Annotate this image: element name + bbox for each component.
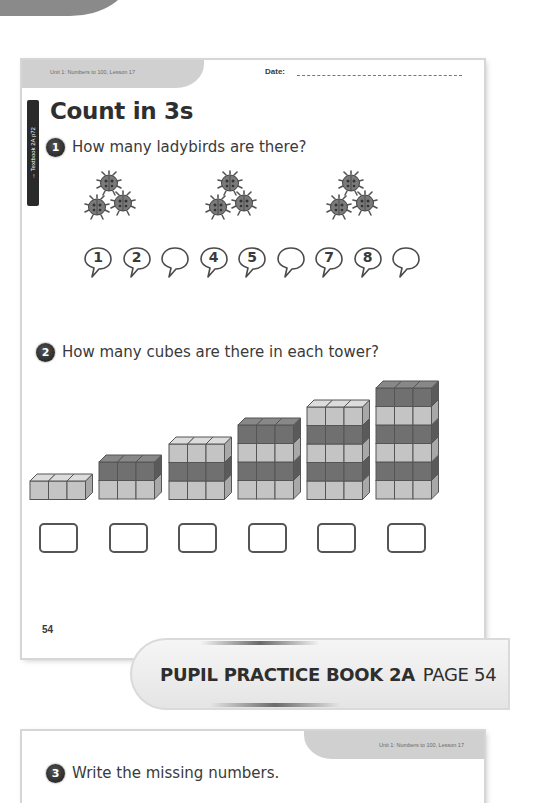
page-number: 54 (42, 624, 53, 635)
banner-book-title: PUPIL PRACTICE BOOK 2A (160, 664, 415, 685)
count-bubble-empty[interactable] (391, 246, 421, 280)
bubble-number: 7 (314, 249, 344, 265)
cube-tower (29, 473, 94, 505)
banner-page-label: PAGE 54 (423, 664, 497, 685)
question-3-number: 3 (52, 767, 60, 780)
bubble-number: 8 (353, 249, 383, 265)
top-decorative-shape (0, 0, 130, 16)
date-label: Date: (265, 67, 285, 76)
ladybird-group (326, 170, 386, 225)
ladybird-icon (352, 190, 378, 216)
answer-box[interactable] (248, 523, 287, 553)
textbook-reference-tab: → Textbook 2A p72 (27, 100, 39, 206)
unit-label: Unit 1: Numbers to 100, Lesson 17 (50, 69, 135, 75)
banner-caption: PUPIL PRACTICE BOOK 2APAGE 54 (160, 664, 496, 685)
answer-box[interactable] (387, 523, 426, 553)
workbook-page-54: Unit 1: Numbers to 100, Lesson 17 Date: … (22, 60, 484, 658)
date-field-line[interactable] (297, 75, 462, 76)
count-bubble-filled: 8 (353, 246, 383, 280)
ladybird-icon (205, 194, 231, 220)
ladybird-icon (110, 190, 136, 216)
cube-tower (237, 417, 302, 504)
question-1-number-badge: 1 (46, 138, 65, 157)
page-title: Count in 3s (50, 98, 193, 124)
question-1-text: How many ladybirds are there? (72, 138, 307, 156)
cube-tower (168, 436, 233, 505)
unit-label-2: Unit 1: Numbers to 100, Lesson 17 (379, 742, 464, 748)
textbook-reference-label: → Textbook 2A p72 (30, 127, 36, 179)
cube-tower (98, 454, 163, 504)
question-2-number: 2 (42, 346, 50, 359)
banner-decoration-top (200, 641, 320, 645)
cube-tower (306, 399, 371, 505)
cube-tower (375, 380, 440, 504)
question-1-number: 1 (52, 141, 60, 154)
count-bubble-filled: 5 (237, 246, 267, 280)
question-3-number-badge: 3 (46, 764, 65, 783)
ladybird-icon (326, 194, 352, 220)
question-2-number-badge: 2 (36, 343, 55, 362)
bubble-number: 1 (83, 249, 113, 265)
count-bubble-filled: 7 (314, 246, 344, 280)
ladybird-group (84, 170, 144, 225)
count-bubble-filled: 4 (199, 246, 229, 280)
count-bubble-empty[interactable] (160, 246, 190, 280)
count-bubble-filled: 2 (122, 246, 152, 280)
ladybird-icon (231, 190, 257, 216)
question-2-text: How many cubes are there in each tower? (62, 343, 379, 361)
banner-decoration-bottom (210, 703, 340, 707)
answer-box[interactable] (317, 523, 356, 553)
bubble-number: 4 (199, 249, 229, 265)
workbook-page-55: Unit 1: Numbers to 100, Lesson 17 3 Writ… (22, 731, 484, 803)
answer-box[interactable] (178, 523, 217, 553)
count-bubble-filled: 1 (83, 246, 113, 280)
bubble-number: 2 (122, 249, 152, 265)
ladybird-group (205, 170, 265, 225)
bubble-number: 5 (237, 249, 267, 265)
question-3-text: Write the missing numbers. (72, 764, 279, 782)
count-bubble-empty[interactable] (276, 246, 306, 280)
answer-box[interactable] (109, 523, 148, 553)
ladybird-icon (84, 194, 110, 220)
answer-box[interactable] (39, 523, 78, 553)
